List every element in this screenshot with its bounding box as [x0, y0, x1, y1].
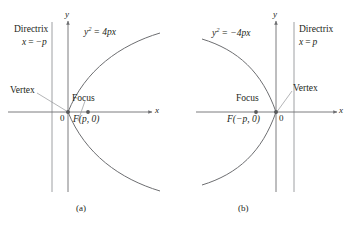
- directrix-title-b: Directrix: [299, 24, 333, 35]
- focus-point-b: F(−p, 0): [227, 114, 260, 125]
- x-axis-label-b: x: [339, 105, 343, 115]
- curve-equation-a: y2= 4px: [84, 27, 116, 38]
- vertex-dot-b: [274, 110, 278, 114]
- directrix-equation-b-eq: =: [305, 37, 310, 47]
- directrix-equation-b-var: x: [299, 37, 303, 47]
- curve-equation-b-exponent: 2: [216, 26, 219, 33]
- curve-equation-b: y2= −4px: [212, 28, 250, 39]
- focus-label-a: Focus: [72, 93, 95, 104]
- curve-equation-a-rest: = 4px: [93, 27, 116, 37]
- directrix-equation-b: x=p: [299, 37, 317, 48]
- curve-equation-b-rest: = −4px: [221, 28, 250, 38]
- directrix-equation-a: x=−p: [22, 37, 47, 48]
- y-axis-label-b: y: [273, 9, 277, 19]
- focus-label-b: Focus: [236, 93, 259, 104]
- parabola-figure: Directrix x=−p y2= 4px Vertex Focus F(p,…: [0, 0, 350, 230]
- vertex-label-b: Vertex: [293, 83, 318, 94]
- directrix-title-a: Directrix: [14, 24, 48, 35]
- caption-a: (a): [76, 203, 86, 213]
- vertex-leader-b: [278, 91, 293, 111]
- directrix-equation-a-val: −p: [36, 37, 47, 47]
- origin-label-a: 0: [60, 113, 65, 123]
- curve-equation-a-exponent: 2: [88, 25, 91, 32]
- directrix-equation-a-eq: =: [28, 37, 33, 47]
- origin-label-b: 0: [279, 113, 284, 123]
- vertex-dot-a: [66, 110, 70, 114]
- x-axis-label-a: x: [155, 105, 159, 115]
- figure-canvas: [0, 0, 350, 230]
- vertex-label-a: Vertex: [10, 85, 35, 96]
- caption-b: (b): [238, 203, 249, 213]
- directrix-equation-a-var: x: [22, 37, 26, 47]
- focus-point-a: F(p, 0): [73, 114, 99, 125]
- directrix-equation-b-val: p: [313, 37, 318, 47]
- y-axis-label-a: y: [65, 9, 69, 19]
